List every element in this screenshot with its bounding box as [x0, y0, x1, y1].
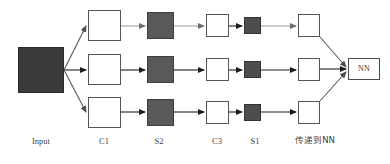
- s1-node-row3: [244, 104, 261, 121]
- stage-label-c3: C3: [200, 137, 234, 146]
- stage-label-pass-to-nn: 传递到NN: [283, 136, 347, 145]
- input-block: [18, 47, 64, 93]
- edge-output-row3-to-nn: [320, 72, 346, 101]
- c1-node-row3: [88, 97, 121, 128]
- s2-node-row1: [147, 12, 174, 39]
- s2-node-row3: [147, 99, 174, 126]
- s2-node-row2: [147, 56, 174, 83]
- c3-node-row1: [206, 14, 229, 37]
- output-node-row1: [298, 14, 320, 37]
- edge-input-to-c1-row3: [64, 70, 86, 112]
- stage-label-input: Input: [14, 137, 68, 146]
- nn-box: NN: [348, 58, 380, 80]
- nn-label: NN: [358, 65, 370, 73]
- output-node-row3: [298, 101, 320, 124]
- diagram-canvas: NN InputC1S2C3S1传递到NN: [0, 0, 390, 164]
- c3-node-row3: [206, 101, 229, 124]
- c1-node-row1: [88, 10, 121, 41]
- stage-label-c1: C1: [86, 137, 122, 146]
- edge-input-to-c1-row1: [64, 26, 86, 70]
- c3-node-row2: [206, 58, 229, 81]
- c1-node-row2: [88, 54, 121, 85]
- output-node-row2: [298, 58, 320, 81]
- edge-output-row1-to-nn: [320, 37, 346, 67]
- s1-node-row1: [244, 17, 261, 34]
- stage-label-s2: S2: [141, 137, 177, 146]
- s1-node-row2: [244, 61, 261, 78]
- stage-label-s1: S1: [239, 137, 271, 146]
